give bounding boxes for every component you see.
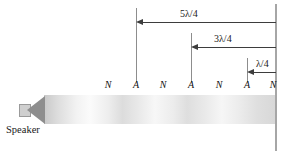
dimension-label-lambda4: λ/4 (256, 58, 269, 69)
dimension-tick-3lambda4 (191, 33, 192, 82)
speaker-label: Speaker (6, 124, 40, 135)
arrow-left-icon-5lambda4 (136, 19, 143, 25)
node-marker-1: N (105, 79, 112, 90)
antinode-marker-1: A (133, 79, 139, 90)
antinode-marker-2: A (188, 79, 194, 90)
node-marker-2: N (160, 79, 167, 90)
arrow-left-icon-3lambda4 (191, 44, 198, 50)
dimension-line-lambda4 (251, 72, 276, 73)
dimension-label-5lambda4: 5λ/4 (180, 8, 198, 19)
standing-wave-figure: Speaker 5λ/4 3λ/4 λ/4 N A N A N A N (0, 0, 304, 155)
dimension-line-3lambda4 (195, 47, 276, 48)
node-marker-3: N (216, 79, 223, 90)
antinode-marker-3: A (244, 79, 250, 90)
sound-beam (44, 95, 275, 124)
dimension-label-3lambda4: 3λ/4 (214, 33, 232, 44)
speaker-cone-icon (27, 96, 45, 124)
node-marker-4: N (270, 79, 277, 90)
reflecting-wall (275, 4, 277, 151)
dimension-line-5lambda4 (140, 22, 276, 23)
arrow-left-icon-lambda4 (247, 69, 254, 75)
